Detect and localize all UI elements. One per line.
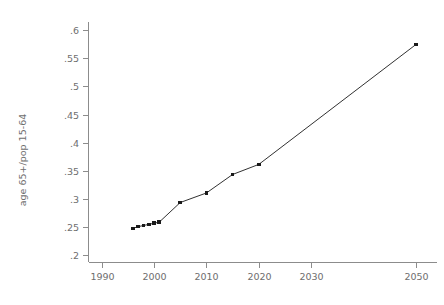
data-point-marker (147, 223, 151, 227)
y-tick-label: .3 (70, 194, 79, 205)
x-tick-label: 1990 (90, 271, 114, 282)
x-tick-label: 2010 (194, 271, 218, 282)
data-point-marker (157, 220, 161, 224)
old-age-dependency-ratio-line-chart: .2.25.3.35.4.45.5.55.6 age 65+/pop 15-64… (0, 0, 444, 305)
y-tick-label: .2 (70, 250, 79, 261)
data-point-marker (414, 43, 418, 47)
x-tick-label: 2030 (299, 271, 323, 282)
data-point-marker (257, 163, 261, 167)
y-tick-label: .25 (64, 222, 79, 233)
y-tick-label: .6 (70, 25, 79, 36)
data-point-marker (178, 201, 182, 205)
x-tick-label: 2050 (404, 271, 428, 282)
y-tick-label: .55 (64, 53, 79, 64)
y-tick-label: .5 (70, 81, 79, 92)
x-tick-label: 2000 (142, 271, 166, 282)
data-point-marker (231, 173, 235, 177)
x-tick-label: 2020 (247, 271, 271, 282)
data-point-marker (205, 191, 209, 195)
y-tick-label: .45 (64, 110, 79, 121)
chart-background (0, 0, 444, 305)
data-point-marker (142, 224, 146, 228)
y-tick-label: .35 (64, 166, 79, 177)
chart-container: .2.25.3.35.4.45.5.55.6 age 65+/pop 15-64… (0, 0, 444, 305)
y-axis-title: age 65+/pop 15-64 (17, 114, 28, 206)
data-point-marker (152, 221, 156, 225)
y-tick-label: .4 (70, 138, 79, 149)
data-point-marker (136, 225, 140, 229)
data-point-marker (131, 227, 135, 231)
